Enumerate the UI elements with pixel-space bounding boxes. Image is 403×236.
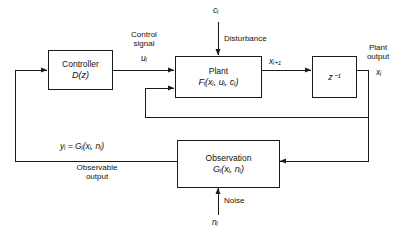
control-signal-label: Control signal <box>118 30 170 48</box>
noise-label: Noise <box>224 196 244 205</box>
control-signal-line2: signal <box>118 39 170 48</box>
block-unit-delay[interactable]: z⁻¹ <box>312 56 357 98</box>
control-signal-symbol: uᵢ <box>118 54 170 64</box>
block-controller[interactable]: Controller D(z) <box>48 50 113 90</box>
control-signal-line1: Control <box>118 30 170 39</box>
observable-output-line2: output <box>52 172 142 181</box>
observable-output-line1: Observable <box>52 163 142 172</box>
block-plant[interactable]: Plant Fᵢ(xᵢ, uᵢ, cᵢ) <box>175 56 262 98</box>
noise-symbol: nᵢ <box>212 218 218 228</box>
diagram-wires <box>0 0 403 236</box>
plant-output-line1: Plant <box>356 43 400 52</box>
disturbance-symbol: cᵢ <box>213 6 218 16</box>
controller-name: Controller <box>62 59 99 70</box>
block-observation[interactable]: Observation Gᵢ(xᵢ, nᵢ) <box>177 140 280 188</box>
block-diagram-figure: Controller D(z) Plant Fᵢ(xᵢ, uᵢ, cᵢ) z⁻¹… <box>0 0 403 236</box>
plant-output-label: Plant output <box>356 43 400 61</box>
state-next-symbol: xᵢ₊₁ <box>269 57 281 67</box>
observable-output-label: Observable output <box>52 163 142 181</box>
plant-name: Plant <box>209 66 228 77</box>
observation-name: Observation <box>206 153 252 164</box>
plant-output-symbol: xᵢ <box>376 68 381 78</box>
disturbance-label: Disturbance <box>224 34 267 43</box>
controller-transfer: D(z) <box>72 70 89 81</box>
plant-function: Fᵢ(xᵢ, uᵢ, cᵢ) <box>199 77 239 88</box>
plant-output-line2: output <box>356 52 400 61</box>
observation-function: Gᵢ(xᵢ, nᵢ) <box>213 164 244 175</box>
observable-equation: yᵢ = Gᵢ(xᵢ, nᵢ) <box>60 142 104 152</box>
unit-delay-label: z⁻¹ <box>328 72 341 83</box>
